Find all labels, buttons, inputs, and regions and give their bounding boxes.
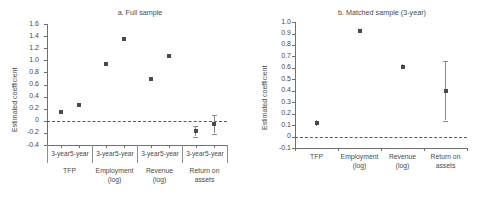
panel-a-title: a. Full sample (60, 8, 220, 17)
panel-a-y-tick-label: 1.6 (8, 20, 39, 27)
panel-a-marker (212, 122, 216, 126)
panel-b-y-tick (292, 45, 295, 46)
panel-b-y-tick-label: 0.2 (261, 109, 291, 116)
panel-a-marker (149, 77, 153, 81)
panel-b-x-tick (338, 148, 339, 151)
panel-a-y-tick-label: 0 (8, 116, 39, 123)
panel-b-marker (315, 121, 319, 125)
panel-a-x-tick (79, 145, 80, 148)
panel-a-y-tick (44, 133, 47, 134)
panel-b-error-cap-top (443, 61, 448, 62)
panel-a-y-tick-label: 0.4 (8, 92, 39, 99)
panel-a-marker (167, 54, 171, 58)
panel-b-category-label: Return onassets (420, 153, 472, 170)
panel-a-plot-area (47, 24, 227, 145)
panel-a-error-cap-bottom (193, 137, 198, 138)
figure-estimated-coefficients: a. Full sample Estimated coefficient 1.6… (0, 0, 477, 200)
panel-b-x-tick (381, 148, 382, 151)
panel-b-y-tick (292, 34, 295, 35)
panel-full-sample: a. Full sample Estimated coefficient 1.6… (0, 0, 240, 200)
panel-b-marker (358, 29, 362, 33)
panel-b-y-tick (292, 125, 295, 126)
panel-b-y-tick-label: 0.6 (261, 63, 291, 70)
panel-b-y-tick (292, 22, 295, 23)
panel-b-y-tick-label: 0.5 (261, 75, 291, 82)
panel-b-y-tick-label: 0.7 (261, 52, 291, 59)
panel-b-y-tick-label: 0.1 (261, 121, 291, 128)
panel-a-marker (104, 62, 108, 66)
panel-b-y-tick-label: 0 (261, 132, 291, 139)
panel-a-y-tick-label: 1.2 (8, 44, 39, 51)
panel-b-y-tick-label: 0.4 (261, 86, 291, 93)
panel-a-y-tick-label: -0.2 (8, 128, 39, 135)
panel-b-y-tick-label: -0.1 (261, 144, 291, 151)
panel-a-y-tick-label: 0.8 (8, 68, 39, 75)
panel-a-error-cap-top (193, 126, 198, 127)
panel-a-x-tick (61, 145, 62, 148)
panel-a-y-tick (44, 72, 47, 73)
panel-a-y-tick (44, 97, 47, 98)
panel-b-y-tick (292, 102, 295, 103)
panel-a-x-tick (124, 145, 125, 148)
panel-a-x-tick (196, 145, 197, 148)
panel-b-x-tick (467, 148, 468, 151)
panel-b-marker (401, 65, 405, 69)
panel-b-zero-reference (295, 137, 467, 138)
panel-a-zero-reference (47, 121, 227, 122)
panel-b-y-tick (292, 68, 295, 69)
panel-a-x-tick (106, 145, 107, 148)
panel-a-error-cap-top (212, 115, 217, 116)
panel-matched-sample: b. Matched sample (3-year) Estimated coe… (237, 0, 477, 200)
panel-a-y-tick (44, 48, 47, 49)
panel-a-x-tick (214, 145, 215, 148)
panel-a-y-tick (44, 24, 47, 25)
panel-b-y-tick (292, 114, 295, 115)
panel-a-group-label: Return onassets (179, 167, 231, 184)
panel-b-y-tick-label: 0.8 (261, 40, 291, 47)
panel-b-y-tick-label: 0.3 (261, 98, 291, 105)
panel-a-marker (194, 129, 198, 133)
panel-a-marker (59, 110, 63, 114)
panel-b-y-tick (292, 79, 295, 80)
panel-a-marker (77, 103, 81, 107)
panel-b-error-cap-bottom (443, 121, 448, 122)
panel-a-y-axis (47, 24, 48, 145)
panel-b-x-tick (295, 148, 296, 151)
panel-b-y-tick-label: 0.9 (261, 29, 291, 36)
panel-a-y-tick (44, 36, 47, 37)
panel-b-title: b. Matched sample (3-year) (292, 8, 472, 17)
panel-b-y-tick (292, 91, 295, 92)
panel-a-y-tick (44, 85, 47, 86)
panel-a-y-tick (44, 60, 47, 61)
panel-b-y-tick (292, 56, 295, 57)
panel-b-marker (444, 89, 448, 93)
panel-a-y-tick-label: 0.6 (8, 80, 39, 87)
panel-a-y-tick-label: 0.2 (8, 104, 39, 111)
panel-a-error-cap-bottom (212, 134, 217, 135)
panel-a-x-tick (169, 145, 170, 148)
panel-b-x-tick (424, 148, 425, 151)
panel-b-y-tick-label: 1.0 (261, 18, 291, 25)
panel-b-y-axis (295, 22, 296, 148)
panel-a-marker (122, 37, 126, 41)
panel-a-x-tick (151, 145, 152, 148)
panel-a-y-tick-label: -0.4 (8, 141, 39, 148)
panel-a-y-tick (44, 109, 47, 110)
panel-a-y-tick-label: 1.0 (8, 56, 39, 63)
panel-a-y-tick-label: 1.4 (8, 32, 39, 39)
panel-a-horizon-label: 5-year (199, 150, 229, 157)
panel-b-plot-area (295, 22, 467, 148)
